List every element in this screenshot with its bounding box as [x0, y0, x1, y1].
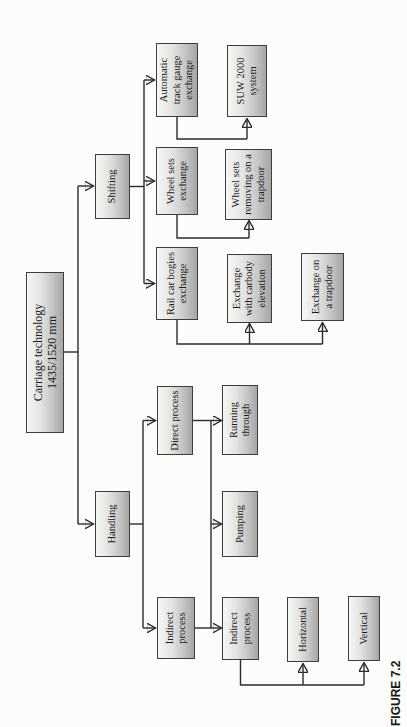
node-exchange-on-trapdoor: Exchange on a trapdoor — [301, 253, 344, 321]
node-automatic-track-gauge-exchange: Automatic track gauge exchange — [156, 43, 198, 117]
node-rail-car-bogies-exchange: Rail car bogies exchange — [156, 247, 198, 320]
connector-gauge-elbow — [177, 117, 247, 139]
node-label: Running — [228, 402, 240, 438]
rotated-figure-stage: Carriage technology 1435/1520 mm Shiftin… — [0, 0, 407, 727]
node-label: exchange — [183, 60, 195, 100]
node-label: Automatic — [158, 58, 170, 102]
node-label: Carriage technology — [31, 304, 45, 402]
node-label: Wheel sets — [230, 162, 242, 208]
node-label: system — [247, 66, 259, 95]
node-indirect-process-sub: Indirect process — [222, 597, 259, 660]
node-pumping: Pumping — [222, 491, 258, 557]
node-shifting: Shifting — [95, 154, 130, 219]
node-indirect-process: Indirect process — [157, 597, 195, 659]
node-label: Vertical — [358, 612, 370, 645]
node-wheel-sets-exchange: Wheel sets exchange — [156, 147, 198, 215]
node-label: exchange — [177, 161, 189, 201]
node-vertical: Vertical — [348, 596, 380, 661]
node-label: Indirect — [228, 612, 240, 645]
node-label: Indirect — [164, 612, 176, 645]
node-label: SUW 2000 — [235, 58, 247, 105]
connector-indirect-sub-elbow — [241, 660, 365, 685]
node-label: track gauge — [171, 56, 183, 105]
node-wheel-sets-removing-trapdoor: Wheel sets removing on a trapdoor — [225, 149, 272, 220]
node-suw-2000-system: SUW 2000 system — [227, 45, 267, 117]
node-label: with carbody — [243, 261, 255, 316]
node-label: through — [240, 404, 252, 437]
node-label: Pumping — [234, 505, 246, 543]
node-exchange-carbody-elevation: Exchange with carbody elevation — [227, 254, 272, 323]
node-label: process — [176, 612, 188, 644]
node-handling: Handling — [95, 491, 130, 557]
node-running-through: Running through — [222, 385, 258, 455]
node-label: Rail car bogies — [165, 252, 177, 315]
node-label: Wheel sets — [165, 158, 177, 204]
node-label: removing on a — [242, 154, 254, 215]
node-label: Handling — [106, 504, 118, 543]
node-label: exchange — [177, 264, 189, 304]
node-label: 1435/1520 mm — [45, 316, 59, 389]
node-label: trapdoor — [255, 167, 267, 203]
node-label: Shifting — [106, 170, 118, 204]
node-label: Horizontal — [297, 607, 309, 652]
figure-caption: FIGURE 7.2 — [389, 661, 403, 726]
node-label: Direct process — [169, 390, 181, 450]
node-carriage-technology: Carriage technology 1435/1520 mm — [26, 272, 64, 433]
node-label: a trapdoor — [323, 266, 335, 309]
node-label: process — [241, 613, 253, 645]
node-horizontal: Horizontal — [287, 597, 319, 662]
node-direct-process: Direct process — [157, 386, 193, 455]
node-label: elevation — [256, 269, 268, 307]
node-label: Exchange — [231, 268, 243, 309]
node-label: Exchange on — [310, 260, 322, 315]
